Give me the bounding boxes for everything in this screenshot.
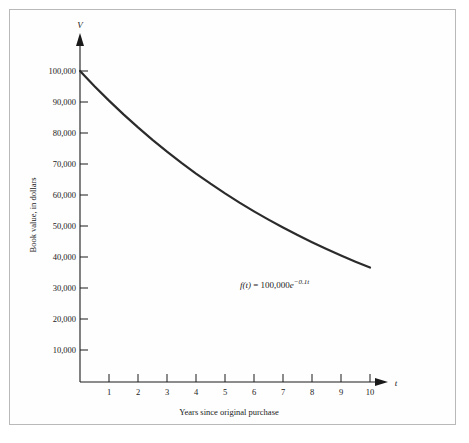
y-tick-label: 70,000 <box>53 159 76 169</box>
x-tick-label: 10 <box>366 387 375 397</box>
formula-argument: (t) <box>243 280 252 290</box>
y-tick-label: 40,000 <box>53 252 76 262</box>
y-tick-label: 90,000 <box>53 97 76 107</box>
x-tick-label: 8 <box>310 387 314 397</box>
x-axis-variable-label: t <box>395 378 398 388</box>
x-tick-label: 3 <box>165 387 169 397</box>
y-tick-label: 60,000 <box>53 190 76 200</box>
y-tick-label: 30,000 <box>53 283 76 293</box>
x-tick-label: 1 <box>107 387 111 397</box>
y-tick-label: 10,000 <box>53 345 76 355</box>
x-tick-label: 2 <box>136 387 140 397</box>
y-tick-label: 50,000 <box>53 221 76 231</box>
x-axis-arrow-icon <box>375 378 388 386</box>
exponential-decay-curve <box>80 71 370 268</box>
y-axis-arrow-icon <box>76 33 84 46</box>
y-tick-label: 20,000 <box>53 314 76 324</box>
x-tick-label: 4 <box>194 387 199 397</box>
x-tick-label: 7 <box>281 387 285 397</box>
x-axis-title: Years since original purchase <box>179 407 279 417</box>
formula-exponent: −0.1t <box>294 278 310 286</box>
y-axis-variable-label: V <box>77 20 84 30</box>
y-axis-tick-group <box>80 71 88 350</box>
x-tick-label: 9 <box>339 387 343 397</box>
curve-formula-annotation: f(t) = 100,000e−0.1t <box>240 278 310 290</box>
y-tick-label: 80,000 <box>53 128 76 138</box>
x-tick-label: 6 <box>252 387 256 397</box>
figure-container: V t 100,000 90,000 80,000 70,000 60,000 … <box>0 0 469 443</box>
formula-equals-coefficient: = 100,000 <box>251 280 290 290</box>
x-tick-label: 5 <box>223 387 227 397</box>
y-tick-label: 100,000 <box>48 66 76 76</box>
x-axis-tick-group <box>109 374 370 382</box>
y-axis-title: Book value, in dollars <box>28 177 38 252</box>
chart-canvas: V t 100,000 90,000 80,000 70,000 60,000 … <box>0 0 469 443</box>
